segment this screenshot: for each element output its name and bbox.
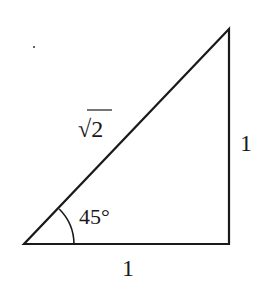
angle-arc (59, 209, 74, 244)
triangle-diagram: √2 1 1 45° (0, 0, 258, 293)
horizontal-side-label: 1 (122, 255, 134, 281)
stray-dot (33, 46, 35, 48)
hypotenuse-label: √2 (78, 116, 103, 142)
vertical-side-label: 1 (240, 130, 252, 156)
right-triangle (24, 29, 229, 244)
angle-label: 45° (79, 204, 110, 229)
